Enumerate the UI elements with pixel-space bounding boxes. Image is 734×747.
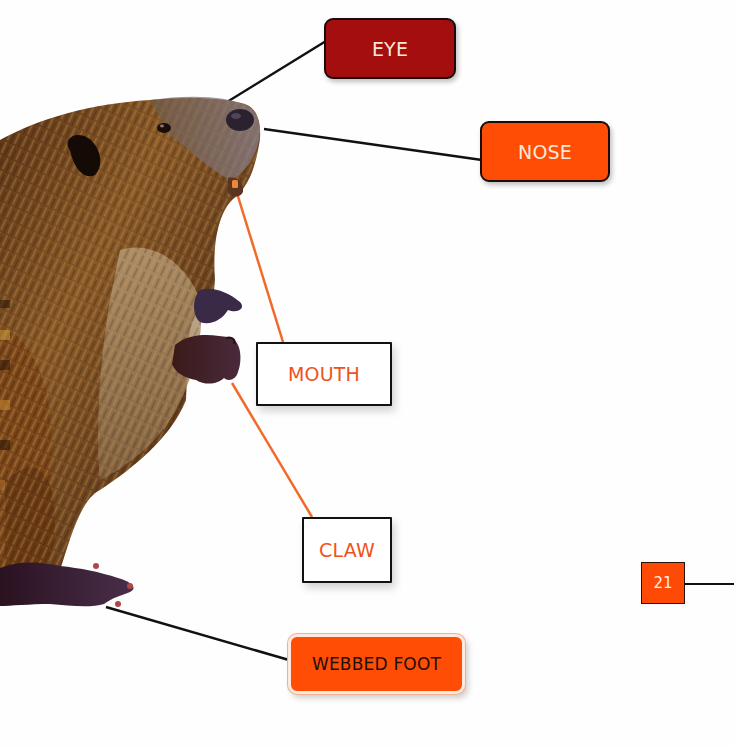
webbed-foot-label-text: WEBBED FOOT (312, 654, 441, 674)
nose-label: NOSE (480, 121, 610, 182)
eye-label: EYE (324, 18, 456, 79)
nose-label-text: NOSE (518, 141, 572, 163)
page-number-badge: 21 (641, 562, 685, 604)
claw-label: CLAW (302, 517, 392, 583)
diagram-page: EYE NOSE MOUTH CLAW WEBBED FOOT 21 (0, 0, 734, 747)
eye-label-text: EYE (372, 38, 408, 60)
nose-shape (226, 109, 254, 131)
webbed-foot-shape (0, 563, 134, 607)
upper-paw (194, 289, 242, 324)
page-number-text: 21 (653, 574, 672, 592)
mouth-label-text: MOUTH (288, 363, 360, 385)
mouth-label: MOUTH (256, 342, 392, 406)
mouth-leader-line (236, 190, 283, 342)
tooth-shape (232, 180, 238, 188)
nose-leader-line (264, 129, 482, 160)
webbed-foot-label: WEBBED FOOT (288, 634, 465, 694)
webbed-foot-leader-line (106, 607, 289, 660)
claw-label-text: CLAW (319, 539, 375, 561)
eye-shape (157, 123, 171, 133)
page-number-rule (685, 583, 734, 585)
eye-leader-line (214, 41, 326, 110)
